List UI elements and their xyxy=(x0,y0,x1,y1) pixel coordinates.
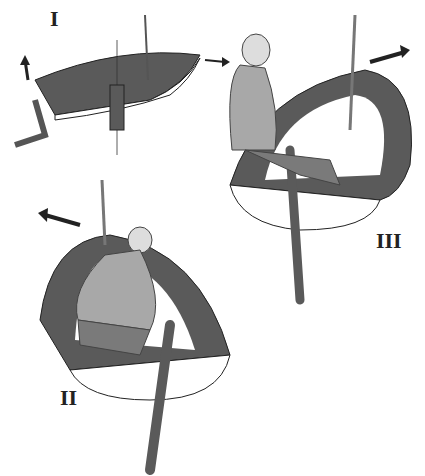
illustration-canvas: I II III xyxy=(0,0,425,476)
panel-label-ii: II xyxy=(60,385,77,411)
panel-label-i: I xyxy=(50,6,59,32)
panel-iii-boat xyxy=(230,15,412,300)
panel-ii-boat xyxy=(38,180,230,470)
panel-label-iii: III xyxy=(376,228,402,254)
panel-i-boat xyxy=(15,15,230,155)
